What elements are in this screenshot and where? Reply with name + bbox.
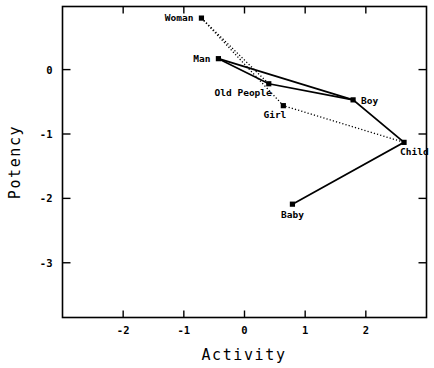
data-point-markers	[199, 15, 407, 206]
data-series-layer	[201, 18, 404, 204]
y-tick-label: -2	[40, 192, 53, 204]
marker-boy	[350, 97, 355, 102]
point-label-child: Child	[400, 146, 429, 157]
marker-woman	[199, 15, 204, 20]
x-axis-tick-labels: -2-1012	[117, 324, 369, 336]
chart-figure: -2-1012 0-1-2-3 WomanManOld PeopleGirlBo…	[0, 0, 434, 368]
marker-child	[401, 140, 406, 145]
x-axis-ticks	[123, 7, 366, 318]
point-label-man: Man	[193, 53, 210, 64]
x-tick-label: 2	[363, 324, 369, 336]
series-solid-path	[218, 59, 404, 205]
x-tick-label: -1	[178, 324, 191, 336]
point-label-boy: Boy	[361, 95, 378, 106]
y-tick-label: -1	[40, 128, 53, 140]
scatter-plot: -2-1012 0-1-2-3 WomanManOld PeopleGirlBo…	[0, 0, 434, 368]
x-axis-title: Activity	[201, 346, 286, 364]
x-tick-label: 1	[302, 324, 308, 336]
data-point-labels: WomanManOld PeopleGirlBoyChildBaby	[165, 12, 429, 220]
y-axis-title: Potency	[6, 125, 24, 199]
point-label-girl: Girl	[263, 109, 286, 120]
series-dotted-path-b	[201, 18, 404, 142]
y-tick-label: -3	[40, 257, 53, 269]
point-label-woman: Woman	[165, 12, 194, 23]
y-axis-tick-labels: 0-1-2-3	[40, 64, 53, 269]
plot-frame	[63, 7, 427, 318]
marker-baby	[290, 202, 295, 207]
marker-man	[216, 56, 221, 61]
point-label-baby: Baby	[281, 209, 304, 220]
x-tick-label: 0	[241, 324, 247, 336]
x-tick-label: -2	[117, 324, 130, 336]
y-tick-label: 0	[46, 64, 52, 76]
marker-old-people	[266, 81, 271, 86]
marker-girl	[281, 103, 286, 108]
point-label-old-people: Old People	[215, 87, 272, 98]
